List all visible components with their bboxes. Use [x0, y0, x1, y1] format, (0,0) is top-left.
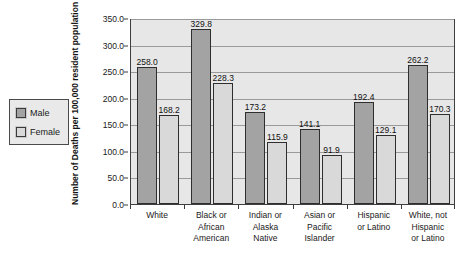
chart-root: Male Female Number of Deaths per 100,000… — [0, 0, 466, 261]
x-axis-label: White — [130, 210, 184, 222]
bar-female[interactable]: 129.1 — [376, 135, 396, 204]
x-axis-label: White, not Hispanic or Latino — [401, 210, 455, 245]
x-tick-mark — [184, 205, 185, 209]
bar-value-label: 329.8 — [191, 20, 212, 29]
legend-swatch-female — [16, 127, 26, 137]
y-tick-label: 150.0 — [103, 120, 124, 130]
bar-group: 141.191.9 — [294, 20, 348, 204]
y-tick-label: 300.0 — [103, 41, 124, 51]
y-tick-label: 250.0 — [103, 67, 124, 77]
legend-label-female: Female — [30, 127, 60, 137]
y-tick-label: 200.0 — [103, 94, 124, 104]
y-tick-label: 0.0 — [112, 200, 124, 210]
x-tick-mark — [347, 205, 348, 209]
y-axis-title: Number of Deaths per 100,000 resident po… — [70, 19, 80, 205]
y-tick-mark — [124, 72, 128, 73]
y-tick-mark — [124, 98, 128, 99]
y-tick-mark — [124, 19, 128, 20]
bar-value-label: 258.0 — [136, 58, 157, 67]
bar-groups: 258.0168.2329.8228.3173.2115.9141.191.91… — [131, 20, 454, 204]
bar-female[interactable]: 170.3 — [430, 114, 450, 205]
bar-value-label: 173.2 — [245, 103, 266, 112]
bar-female[interactable]: 168.2 — [159, 115, 179, 204]
y-tick-label: 100.0 — [103, 147, 124, 157]
plot-area: 258.0168.2329.8228.3173.2115.9141.191.91… — [130, 19, 455, 205]
bar-value-label: 168.2 — [158, 106, 179, 115]
legend-label-male: Male — [30, 108, 50, 118]
x-tick-mark — [401, 205, 402, 209]
y-axis-ticks: 0.050.0100.0150.0200.0250.0300.0350.0 — [92, 19, 128, 205]
y-tick-label: 350.0 — [103, 14, 124, 24]
chart-legend: Male Female — [9, 99, 69, 145]
x-tick-mark — [238, 205, 239, 209]
bar-female[interactable]: 115.9 — [267, 142, 287, 204]
x-axis-label: Hispanic or Latino — [347, 210, 401, 233]
y-tick-mark — [124, 178, 128, 179]
x-axis-label: Asian or Pacific Islander — [293, 210, 347, 245]
y-tick-mark — [124, 151, 128, 152]
x-axis-labels: WhiteBlack or African AmericanIndian or … — [130, 210, 455, 256]
bar-group: 192.4129.1 — [348, 20, 402, 204]
bar-male[interactable]: 192.4 — [354, 102, 374, 204]
bar-value-label: 129.1 — [375, 126, 396, 135]
legend-swatch-male — [16, 108, 26, 118]
x-axis-label: Indian or Alaska Native — [238, 210, 292, 245]
bar-value-label: 115.9 — [267, 133, 288, 142]
bar-value-label: 91.9 — [323, 146, 340, 155]
bar-group: 329.8228.3 — [185, 20, 239, 204]
y-tick-mark — [124, 45, 128, 46]
bar-male[interactable]: 173.2 — [245, 112, 265, 204]
y-tick-mark — [124, 205, 128, 206]
legend-item-male[interactable]: Male — [16, 106, 68, 120]
y-axis-title-wrapper: Number of Deaths per 100,000 resident po… — [62, 19, 88, 205]
bar-group: 262.2170.3 — [402, 20, 456, 204]
x-tick-mark — [293, 205, 294, 209]
y-tick-label: 50.0 — [107, 173, 124, 183]
bar-male[interactable]: 258.0 — [137, 67, 157, 204]
bar-male[interactable]: 329.8 — [191, 29, 211, 204]
y-tick-mark — [124, 125, 128, 126]
x-axis-label: Black or African American — [184, 210, 238, 245]
bar-female[interactable]: 228.3 — [213, 83, 233, 204]
x-tick-mark — [454, 205, 455, 209]
bar-value-label: 228.3 — [213, 74, 234, 83]
bar-male[interactable]: 262.2 — [408, 65, 428, 204]
bar-value-label: 170.3 — [429, 105, 450, 114]
bar-group: 258.0168.2 — [131, 20, 185, 204]
bar-value-label: 262.2 — [407, 56, 428, 65]
x-tick-mark — [130, 205, 131, 209]
bar-value-label: 192.4 — [353, 93, 374, 102]
bar-value-label: 141.1 — [299, 120, 320, 129]
legend-item-female[interactable]: Female — [16, 125, 68, 139]
bar-male[interactable]: 141.1 — [300, 129, 320, 204]
bar-group: 173.2115.9 — [239, 20, 293, 204]
bar-female[interactable]: 91.9 — [322, 155, 342, 204]
